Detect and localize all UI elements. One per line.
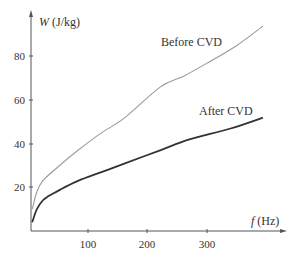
ytick-label-80: 80 xyxy=(14,50,26,62)
y-axis-label: W (J/kg) xyxy=(39,15,80,29)
y-axis-arrow-icon xyxy=(29,10,33,17)
xtick-label-200: 200 xyxy=(139,238,156,250)
line-chart: 80 60 40 20 100 200 300 W (J/kg) f (Hz) … xyxy=(0,0,297,261)
x-axis-label: f (Hz) xyxy=(251,214,279,228)
ytick-label-40: 40 xyxy=(14,138,26,150)
after-cvd-label: After CVD xyxy=(199,104,253,118)
ytick-label-60: 60 xyxy=(14,94,26,106)
before-cvd-label: Before CVD xyxy=(161,35,222,49)
after-cvd-curve xyxy=(32,118,263,223)
xtick-label-100: 100 xyxy=(80,238,97,250)
xtick-label-300: 300 xyxy=(199,238,216,250)
x-axis-arrow-icon xyxy=(280,229,287,233)
ytick-label-20: 20 xyxy=(14,181,26,193)
